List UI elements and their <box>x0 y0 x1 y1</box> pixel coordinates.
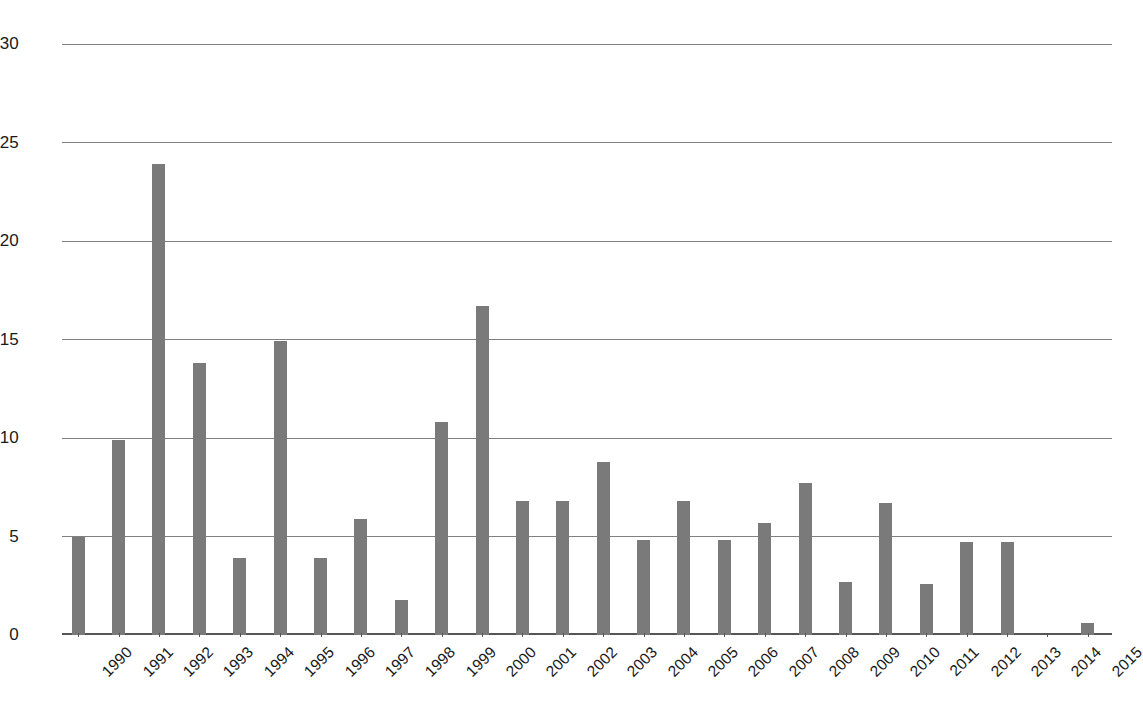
x-tick-mark <box>1088 633 1089 637</box>
x-tick-mark <box>765 633 766 637</box>
x-tick-label: 1998 <box>422 643 460 681</box>
y-tick-label: 0 <box>0 626 19 643</box>
x-tick-mark <box>199 633 200 637</box>
x-tick-mark <box>401 633 402 637</box>
x-tick-label: 1995 <box>300 643 338 681</box>
gridline <box>62 142 1112 143</box>
x-tick-label: 1994 <box>260 643 298 681</box>
x-tick-mark <box>724 633 725 637</box>
gridline <box>62 339 1112 340</box>
bar[interactable] <box>72 537 85 636</box>
bar[interactable] <box>314 558 327 635</box>
y-tick-label: 25 <box>0 134 19 151</box>
x-tick-label: 1997 <box>381 643 419 681</box>
y-tick-label: 20 <box>0 232 19 249</box>
x-tick-mark <box>442 633 443 637</box>
x-tick-label: 2008 <box>825 643 863 681</box>
x-tick-label: 2011 <box>946 643 983 680</box>
bar[interactable] <box>718 540 731 635</box>
y-tick-label: 5 <box>0 528 19 545</box>
x-tick-label: 2012 <box>987 643 1025 681</box>
bar-chart: 051015202530 199019911992199319941995199… <box>0 0 1143 724</box>
x-tick-mark <box>1007 633 1008 637</box>
bar[interactable] <box>1001 542 1014 635</box>
bar[interactable] <box>274 341 287 635</box>
x-tick-mark <box>361 633 362 637</box>
y-tick-label: 30 <box>0 35 19 52</box>
x-tick-mark <box>321 633 322 637</box>
bar[interactable] <box>839 582 852 635</box>
x-axis-labels: 1990199119921993199419951996199719981999… <box>62 637 1112 724</box>
x-tick-label: 1996 <box>341 643 379 681</box>
x-tick-mark <box>119 633 120 637</box>
x-tick-label: 2007 <box>785 643 823 681</box>
x-tick-label: 2000 <box>502 643 540 681</box>
x-tick-mark <box>846 633 847 637</box>
x-tick-label: 2003 <box>624 643 662 681</box>
x-tick-label: 2014 <box>1068 643 1106 681</box>
x-tick-label: 2009 <box>866 643 904 681</box>
y-tick-label: 15 <box>0 331 19 348</box>
x-tick-label: 2001 <box>543 643 581 681</box>
x-tick-mark <box>159 633 160 637</box>
gridline <box>62 44 1112 45</box>
bar[interactable] <box>395 600 408 635</box>
x-tick-mark <box>684 633 685 637</box>
bar[interactable] <box>960 542 973 635</box>
bar[interactable] <box>920 584 933 635</box>
x-tick-mark <box>805 633 806 637</box>
x-tick-label: 2005 <box>704 643 742 681</box>
bar[interactable] <box>112 440 125 635</box>
bar[interactable] <box>516 501 529 635</box>
x-tick-mark <box>926 633 927 637</box>
x-tick-mark <box>1047 633 1048 637</box>
plot-area: 051015202530 <box>62 44 1112 635</box>
x-tick-label: 1999 <box>462 643 500 681</box>
bar[interactable] <box>152 164 165 635</box>
bar[interactable] <box>435 422 448 635</box>
x-tick-label: 2015 <box>1108 643 1143 681</box>
x-tick-mark <box>280 633 281 637</box>
bar[interactable] <box>233 558 246 635</box>
x-tick-label: 2002 <box>583 643 621 681</box>
x-tick-label: 2013 <box>1027 643 1065 681</box>
x-tick-label: 1990 <box>99 643 137 681</box>
x-tick-mark <box>603 633 604 637</box>
bar[interactable] <box>556 501 569 635</box>
x-tick-mark <box>240 633 241 637</box>
x-tick-mark <box>967 633 968 637</box>
bar[interactable] <box>879 503 892 635</box>
bar[interactable] <box>758 523 771 635</box>
bar[interactable] <box>677 501 690 635</box>
bar[interactable] <box>597 462 610 635</box>
x-tick-mark <box>644 633 645 637</box>
x-tick-label: 2004 <box>664 643 702 681</box>
x-tick-label: 1991 <box>139 643 177 681</box>
gridline <box>62 241 1112 242</box>
x-tick-mark <box>563 633 564 637</box>
gridline <box>62 438 1112 439</box>
x-tick-mark <box>78 633 79 637</box>
bar[interactable] <box>193 363 206 635</box>
x-tick-label: 1993 <box>220 643 258 681</box>
y-tick-label: 10 <box>0 429 19 446</box>
x-tick-mark <box>522 633 523 637</box>
gridline <box>62 536 1112 537</box>
x-tick-label: 1992 <box>179 643 217 681</box>
bar[interactable] <box>354 519 367 635</box>
x-tick-label: 2006 <box>745 643 783 681</box>
x-tick-mark <box>886 633 887 637</box>
x-tick-label: 2010 <box>906 643 944 681</box>
x-axis-line <box>62 633 1112 635</box>
bar[interactable] <box>476 306 489 635</box>
x-tick-mark <box>482 633 483 637</box>
bar[interactable] <box>637 540 650 635</box>
bar[interactable] <box>799 483 812 635</box>
